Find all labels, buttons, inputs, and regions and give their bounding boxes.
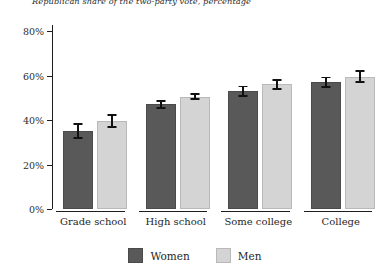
legend-swatch-men [216,248,231,263]
error-bar [194,93,196,100]
error-bar-cap-top [74,123,83,125]
x-axis-segment [304,211,373,212]
error-bar [77,123,79,139]
x-axis-label: High school [135,216,218,227]
error-bar-cap-top [355,70,364,72]
bar-women-some-college [228,91,258,209]
y-tick [47,165,52,166]
y-tick-label: 60% [23,70,44,81]
error-bar [325,77,327,88]
error-bar-cap-bottom [74,137,83,139]
error-bar-cap-top [321,77,330,79]
y-tick [47,120,52,121]
bar-men-high-school [180,97,210,209]
error-bar [359,70,361,83]
x-axis-label: Some college [217,216,300,227]
error-bar-cap-bottom [273,88,282,90]
error-bar [242,86,244,97]
error-bar-cap-bottom [239,95,248,97]
bar-women-college [311,82,341,209]
error-bar-cap-top [108,114,117,116]
error-bar [276,79,278,90]
y-tick [47,209,52,210]
bar-group [228,31,292,209]
y-tick-label: 80% [23,26,44,37]
x-axis-segment [139,211,208,212]
legend-label: Men [238,250,262,262]
chart-title: Republican share of the two-party vote, … [32,0,251,6]
error-bar-cap-bottom [190,98,199,100]
legend-item-men[interactable]: Men [216,248,262,263]
y-tick-label: 0% [29,204,44,215]
y-tick-label: 20% [23,159,44,170]
bar-women-high-school [146,104,176,209]
x-axis-label: College [300,216,383,227]
error-bar-cap-top [273,79,282,81]
bar-group [146,31,210,209]
bar-men-college [345,77,375,209]
bar-group [311,31,375,209]
error-bar-cap-top [156,100,165,102]
chart-legend: WomenMen [0,248,390,263]
error-bar-cap-bottom [156,107,165,109]
y-tick [47,31,52,32]
y-tick-label: 40% [23,115,44,126]
legend-item-women[interactable]: Women [128,248,189,263]
bar-men-some-college [262,84,292,209]
error-bar-cap-bottom [355,81,364,83]
error-bar [160,100,162,109]
legend-label: Women [150,250,189,262]
bar-men-grade-school [97,121,127,209]
error-bar [111,114,113,127]
error-bar-cap-bottom [108,126,117,128]
legend-swatch-women [128,248,143,263]
x-axis-label: Grade school [52,216,135,227]
plot-area: 0%20%40%60%80% [52,31,382,209]
bar-group [63,31,127,209]
error-bar-cap-bottom [321,86,330,88]
x-axis-segment [56,211,125,212]
error-bar-cap-top [239,86,248,88]
bar-women-grade-school [63,131,93,209]
error-bar-cap-top [190,93,199,95]
bar-chart: Republican share of the two-party vote, … [0,0,390,274]
y-tick [47,76,52,77]
y-axis-line [52,25,53,209]
x-axis-segment [221,211,290,212]
